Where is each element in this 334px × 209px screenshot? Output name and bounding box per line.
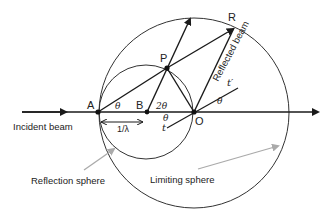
point-B [145,110,150,115]
label-t: t [162,122,167,133]
label-O: O [195,115,204,127]
reflection-sphere-pointer [84,149,114,170]
label-A: A [87,99,95,111]
point-A [95,109,100,114]
limiting-sphere-pointer [198,146,278,169]
angle-theta-O-upper: θ [217,96,223,106]
label-B: B [136,99,143,111]
label-reflection-sphere: Reflection sphere [31,175,105,186]
label-reflected-beam: Reflected beam [210,19,251,83]
label-one-over-lambda: 1/λ [117,124,130,134]
line-P-O [167,68,194,112]
point-O [191,109,196,114]
label-limiting-sphere: Limiting sphere [150,174,214,185]
angle-two-theta-B: 2θ [155,101,168,111]
label-P: P [160,52,167,64]
angle-theta-A: θ [115,101,121,111]
label-R: R [228,11,236,23]
label-t-prime: t′ [227,77,234,88]
ewald-diagram: A B O P R θ 2θ θ θ t t′ 1/λ Incident bea… [0,0,334,209]
point-P [164,65,169,70]
label-incident-beam: Incident beam [13,121,73,132]
